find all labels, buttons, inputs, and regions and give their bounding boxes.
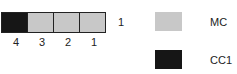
cell-1 [80,13,105,32]
legend-swatch-mc [155,12,182,31]
cell-2 [54,13,80,32]
legend-label-mc: MC [210,16,227,28]
legend-label-cc1: CC1 [210,54,232,66]
cell-label: 2 [55,36,81,48]
cell-strip [1,12,106,33]
cell-4 [2,13,28,32]
legend-swatch-cc1 [155,50,182,69]
row-label: 1 [118,16,124,28]
cell-label: 1 [81,36,107,48]
cell-label: 4 [3,36,29,48]
cell-3 [28,13,54,32]
cell-label: 3 [29,36,55,48]
